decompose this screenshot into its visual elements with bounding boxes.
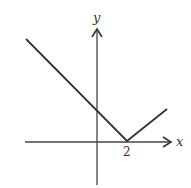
y-axis-label: y: [92, 10, 101, 25]
x-tick-2: 2: [123, 145, 131, 159]
x-axis-label: x: [176, 134, 184, 149]
x-axis: [25, 137, 171, 147]
graph: y x 2: [0, 0, 191, 188]
